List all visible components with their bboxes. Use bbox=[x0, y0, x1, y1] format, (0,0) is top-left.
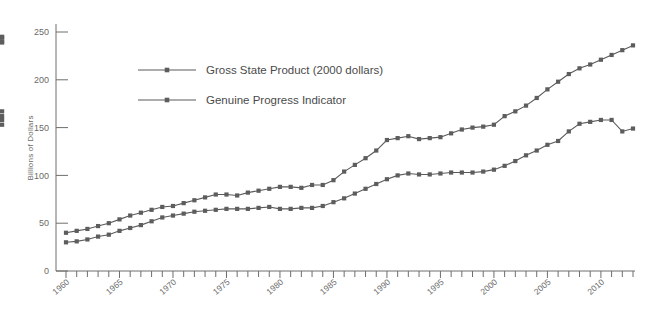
data-point-marker bbox=[289, 185, 293, 189]
data-point-marker bbox=[160, 215, 164, 219]
data-point-marker bbox=[620, 48, 624, 52]
x-tick-label: 1995 bbox=[425, 277, 446, 297]
data-point-marker bbox=[139, 223, 143, 227]
data-point-marker bbox=[353, 163, 357, 167]
y-tick-label: 200 bbox=[34, 75, 49, 85]
y-tick-label: 100 bbox=[34, 171, 49, 181]
x-tick-label: 2010 bbox=[585, 277, 606, 297]
data-point-marker bbox=[0, 109, 4, 113]
data-point-marker bbox=[481, 125, 485, 129]
data-point-marker bbox=[171, 204, 175, 208]
data-point-marker bbox=[214, 208, 218, 212]
data-point-marker bbox=[631, 43, 635, 47]
data-series bbox=[0, 109, 635, 244]
y-tick-label: 50 bbox=[39, 218, 49, 228]
data-point-marker bbox=[363, 187, 367, 191]
data-point-marker bbox=[117, 229, 121, 233]
data-point-marker bbox=[374, 148, 378, 152]
data-point-marker bbox=[470, 126, 474, 130]
legend-label: Gross State Product (2000 dollars) bbox=[206, 64, 383, 76]
data-point-marker bbox=[406, 171, 410, 175]
data-point-marker bbox=[481, 169, 485, 173]
data-point-marker bbox=[428, 172, 432, 176]
data-point-marker bbox=[96, 234, 100, 238]
data-point-marker bbox=[85, 227, 89, 231]
data-point-marker bbox=[321, 204, 325, 208]
data-point-marker bbox=[299, 186, 303, 190]
svg-text:Billions of Dollars: Billions of Dollars bbox=[26, 115, 35, 180]
data-point-marker bbox=[342, 169, 346, 173]
data-point-marker bbox=[588, 120, 592, 124]
legend-marker bbox=[165, 98, 170, 103]
data-point-marker bbox=[299, 206, 303, 210]
data-point-marker bbox=[107, 221, 111, 225]
data-point-marker bbox=[128, 226, 132, 230]
data-point-marker bbox=[470, 170, 474, 174]
data-point-marker bbox=[438, 135, 442, 139]
x-tick-label: 2005 bbox=[532, 277, 553, 297]
data-point-marker bbox=[406, 134, 410, 138]
series-line bbox=[66, 120, 633, 242]
data-point-marker bbox=[182, 201, 186, 205]
data-point-marker bbox=[513, 159, 517, 163]
data-point-marker bbox=[577, 122, 581, 126]
data-point-marker bbox=[588, 62, 592, 66]
y-axis-title: Billions of Dollars bbox=[26, 115, 35, 180]
x-tick-label: 1980 bbox=[264, 277, 285, 297]
data-point-marker bbox=[160, 205, 164, 209]
data-point-marker bbox=[321, 183, 325, 187]
data-point-marker bbox=[310, 183, 314, 187]
data-point-marker bbox=[267, 187, 271, 191]
legend-item-gross-state-product: Gross State Product (2000 dollars) bbox=[138, 64, 383, 76]
data-point-marker bbox=[224, 207, 228, 211]
data-point-marker bbox=[545, 143, 549, 147]
data-point-marker bbox=[610, 53, 614, 57]
data-point-marker bbox=[149, 219, 153, 223]
data-point-marker bbox=[492, 168, 496, 172]
data-point-marker bbox=[385, 138, 389, 142]
data-point-marker bbox=[567, 72, 571, 76]
data-point-marker bbox=[363, 156, 367, 160]
x-tick-label: 1975 bbox=[211, 277, 232, 297]
data-point-marker bbox=[353, 191, 357, 195]
data-point-marker bbox=[610, 118, 614, 122]
y-tick-label: 150 bbox=[34, 123, 49, 133]
data-point-marker bbox=[224, 192, 228, 196]
data-point-marker bbox=[396, 173, 400, 177]
data-point-marker bbox=[0, 35, 4, 39]
data-point-marker bbox=[428, 136, 432, 140]
data-point-marker bbox=[524, 104, 528, 108]
data-point-marker bbox=[460, 127, 464, 131]
data-point-marker bbox=[545, 87, 549, 91]
x-tick-labels: 1960196519701975198019851990199520002005… bbox=[50, 277, 606, 297]
data-point-marker bbox=[492, 123, 496, 127]
data-point-marker bbox=[289, 207, 293, 211]
data-point-marker bbox=[0, 118, 4, 122]
data-point-marker bbox=[246, 207, 250, 211]
data-point-marker bbox=[75, 229, 79, 233]
data-point-marker bbox=[64, 231, 68, 235]
data-point-marker bbox=[64, 240, 68, 244]
data-point-marker bbox=[0, 123, 4, 127]
data-point-marker bbox=[278, 207, 282, 211]
y-axis: 050100150200250 bbox=[34, 24, 68, 276]
data-point-marker bbox=[374, 182, 378, 186]
data-point-marker bbox=[342, 196, 346, 200]
data-point-marker bbox=[75, 239, 79, 243]
data-point-marker bbox=[203, 195, 207, 199]
data-point-marker bbox=[182, 212, 186, 216]
x-tick-label: 2000 bbox=[478, 277, 499, 297]
data-point-marker bbox=[214, 192, 218, 196]
data-point-marker bbox=[535, 148, 539, 152]
data-point-marker bbox=[235, 207, 239, 211]
data-point-marker bbox=[203, 209, 207, 213]
legend-label: Genuine Progress Indicator bbox=[206, 94, 346, 106]
data-point-marker bbox=[556, 80, 560, 84]
data-point-marker bbox=[599, 58, 603, 62]
data-point-marker bbox=[267, 205, 271, 209]
data-point-marker bbox=[310, 206, 314, 210]
data-point-marker bbox=[449, 170, 453, 174]
data-point-marker bbox=[524, 153, 528, 157]
data-point-marker bbox=[149, 208, 153, 212]
data-point-marker bbox=[417, 137, 421, 141]
